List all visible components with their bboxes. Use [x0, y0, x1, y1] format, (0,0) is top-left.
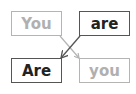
- word-label: are: [91, 15, 119, 33]
- word-label: Are: [22, 62, 51, 80]
- word-box-are-capital: Are: [11, 58, 62, 83]
- word-label: you: [89, 62, 120, 80]
- word-box-are: are: [79, 11, 130, 36]
- word-label: You: [21, 15, 51, 33]
- arrow-are-to-are: [61, 36, 80, 58]
- arrow-you-to-you: [60, 36, 79, 58]
- word-box-you: You: [11, 11, 62, 36]
- word-box-you-lower: you: [79, 58, 130, 83]
